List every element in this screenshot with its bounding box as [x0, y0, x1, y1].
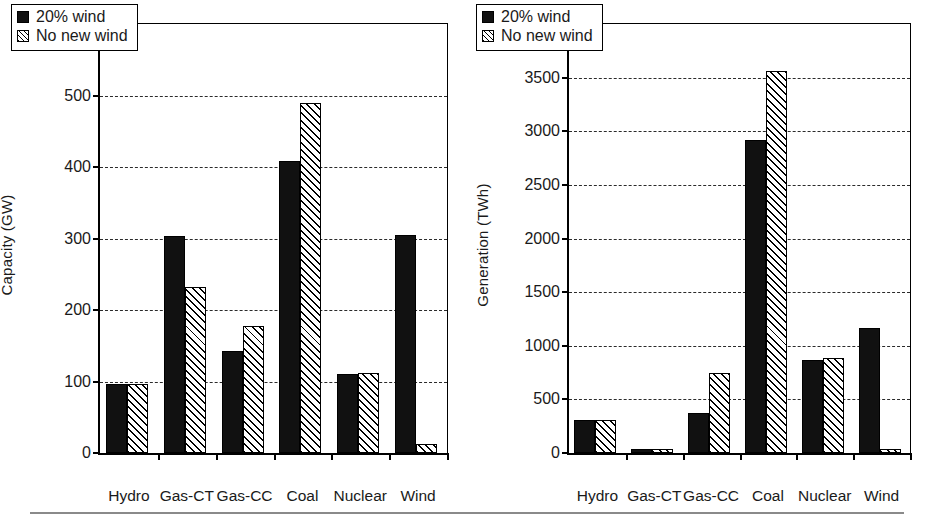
gridline [569, 185, 910, 186]
x-axis-label-wind: Wind [864, 487, 899, 505]
y-tick-label: 3000 [524, 122, 560, 140]
bar-gas-cc-series2 [709, 373, 730, 453]
x-tick-mark [331, 453, 333, 460]
y-tick-label: 3500 [524, 69, 560, 87]
x-tick-mark [158, 453, 160, 460]
gridline [100, 167, 447, 168]
gridline [100, 96, 447, 97]
y-tick-mark [93, 238, 100, 240]
x-tick-mark [740, 453, 742, 460]
gridline [569, 78, 910, 79]
y-tick-mark [562, 238, 569, 240]
y-tick-label: 0 [551, 444, 560, 462]
x-axis-label-gas-ct: Gas-CT [627, 487, 681, 505]
bar-wind-series2 [416, 444, 437, 453]
gridline [569, 131, 910, 132]
plot-area-capacity: 0100200300400500600HydroGas-CTGas-CCCoal… [98, 23, 448, 455]
legend-capacity: 20% windNo new wind [11, 4, 138, 51]
bar-gas-cc-series2 [243, 326, 264, 453]
y-tick-label: 500 [64, 87, 91, 105]
footer-divider [30, 512, 904, 514]
y-axis-title-generation: Generation (TWh) [474, 183, 491, 306]
legend-entry-label: 20% wind [501, 8, 570, 27]
y-tick-label: 300 [64, 230, 91, 248]
x-axis-label-nuclear: Nuclear [798, 487, 851, 505]
bar-gas-ct-series1 [631, 449, 652, 453]
bar-coal-series1 [279, 161, 300, 453]
bar-hydro-series1 [574, 420, 595, 453]
y-tick-mark [93, 166, 100, 168]
y-tick-label: 1500 [524, 283, 560, 301]
y-tick-mark [562, 398, 569, 400]
y-tick-label: 100 [64, 373, 91, 391]
bar-hydro-series1 [106, 384, 127, 453]
chart-panel-capacity: Capacity (GW) 0100200300400500600HydroGa… [0, 0, 463, 490]
bar-gas-cc-series1 [222, 351, 243, 453]
x-tick-mark [216, 453, 218, 460]
bar-coal-series1 [745, 140, 766, 453]
legend-entry-1: 20% wind [17, 8, 128, 27]
legend-swatch-solid-icon [482, 11, 494, 23]
y-tick-mark [562, 130, 569, 132]
y-tick-mark [562, 291, 569, 293]
bar-gas-ct-series1 [164, 236, 185, 453]
x-tick-mark [626, 453, 628, 460]
y-tick-label: 0 [82, 444, 91, 462]
gridline [569, 239, 910, 240]
legend-entry-label: No new wind [36, 27, 128, 46]
x-axis-label-hydro: Hydro [577, 487, 618, 505]
y-tick-mark [562, 452, 569, 454]
x-tick-mark [447, 453, 449, 460]
x-axis-label-hydro: Hydro [108, 487, 149, 505]
bar-gas-ct-series2 [185, 287, 206, 453]
x-tick-mark [683, 453, 685, 460]
bar-hydro-series2 [127, 384, 148, 453]
gridline [569, 292, 910, 293]
figure-two-panel-bar-charts: Capacity (GW) 0100200300400500600HydroGa… [0, 0, 926, 532]
bar-coal-series2 [766, 71, 787, 453]
y-tick-mark [562, 345, 569, 347]
bar-nuclear-series1 [802, 360, 823, 453]
legend-entry-2: No new wind [17, 27, 128, 46]
x-tick-mark [910, 453, 912, 460]
y-tick-mark [93, 381, 100, 383]
legend-generation: 20% windNo new wind [476, 4, 603, 51]
legend-swatch-hatch-icon [17, 30, 29, 42]
y-tick-mark [562, 77, 569, 79]
x-axis-label-gas-cc: Gas-CC [683, 487, 739, 505]
bar-wind-series1 [395, 235, 416, 453]
x-axis-label-nuclear: Nuclear [334, 487, 387, 505]
y-tick-mark [93, 95, 100, 97]
legend-entry-2: No new wind [482, 27, 593, 46]
x-tick-mark [796, 453, 798, 460]
x-axis-label-coal: Coal [286, 487, 318, 505]
bar-wind-series1 [859, 328, 880, 453]
y-tick-label: 2500 [524, 176, 560, 194]
legend-entry-label: 20% wind [36, 8, 105, 27]
x-axis-label-wind: Wind [400, 487, 435, 505]
legend-swatch-hatch-icon [482, 30, 494, 42]
y-tick-label: 400 [64, 158, 91, 176]
plot-area-generation: 05001000150020002500300035004000HydroGas… [567, 23, 911, 455]
chart-panel-generation: Generation (TWh) 05001000150020002500300… [463, 0, 926, 490]
bar-gas-ct-series2 [652, 449, 673, 453]
bar-nuclear-series2 [823, 358, 844, 453]
bar-wind-series2 [880, 449, 901, 453]
bar-coal-series2 [300, 103, 321, 453]
y-tick-label: 200 [64, 301, 91, 319]
legend-entry-label: No new wind [501, 27, 593, 46]
x-axis-label-gas-cc: Gas-CC [217, 487, 273, 505]
bar-hydro-series2 [595, 420, 616, 453]
bar-nuclear-series1 [337, 374, 358, 453]
x-axis-label-coal: Coal [752, 487, 784, 505]
x-tick-mark [274, 453, 276, 460]
legend-entry-1: 20% wind [482, 8, 593, 27]
y-axis-title-capacity: Capacity (GW) [0, 195, 15, 296]
legend-swatch-solid-icon [17, 11, 29, 23]
y-tick-label: 500 [533, 390, 560, 408]
x-tick-mark [853, 453, 855, 460]
y-tick-label: 1000 [524, 337, 560, 355]
y-tick-mark [93, 309, 100, 311]
bar-nuclear-series2 [358, 373, 379, 453]
y-tick-mark [562, 184, 569, 186]
